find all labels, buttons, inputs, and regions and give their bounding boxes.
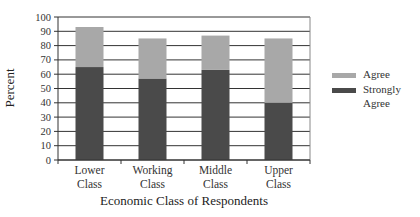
x-category-label: Middle <box>199 164 232 176</box>
bar-segment <box>76 27 104 67</box>
x-axis-label: Economic Class of Respondents <box>100 193 268 208</box>
y-tick-label: 30 <box>41 112 52 123</box>
x-category-label: Lower <box>74 164 104 176</box>
y-tick-label: 40 <box>41 97 52 108</box>
y-tick-label: 0 <box>46 155 51 166</box>
stacked-bar-chart: 0102030405060708090100 LowerClassWorking… <box>0 0 420 217</box>
y-tick-label: 10 <box>41 140 52 151</box>
y-tick-label: 90 <box>41 26 52 37</box>
x-category-label: Upper <box>264 164 293 177</box>
y-tick-label: 100 <box>35 12 51 23</box>
x-category-label: Class <box>203 178 228 190</box>
x-category-label: Class <box>140 178 165 190</box>
x-category-labels: LowerClassWorkingClassMiddleClassUpperCl… <box>74 164 293 190</box>
bars <box>76 27 293 160</box>
x-category-label: Working <box>133 164 173 177</box>
legend: AgreeStronglyAgree <box>332 68 401 109</box>
x-category-label: Class <box>266 178 291 190</box>
y-axis-label: Percent <box>2 68 17 107</box>
bar-segment <box>76 67 104 160</box>
y-tick-label: 60 <box>41 69 52 80</box>
bar-segment <box>202 70 230 160</box>
legend-swatch <box>332 73 356 78</box>
y-tick-label: 80 <box>41 40 52 51</box>
bar-segment <box>202 36 230 70</box>
legend-label: Agree <box>363 68 390 80</box>
legend-label: Strongly <box>363 83 401 95</box>
y-tick-label: 50 <box>41 83 52 94</box>
x-category-label: Class <box>77 178 102 190</box>
legend-swatch <box>332 88 356 93</box>
bar-segment <box>265 103 293 160</box>
y-tick-label: 20 <box>41 126 52 137</box>
bar-segment <box>139 38 167 78</box>
legend-label: Agree <box>363 97 390 109</box>
bar-segment <box>265 38 293 102</box>
y-tick-labels: 0102030405060708090100 <box>35 12 51 166</box>
y-tick-label: 70 <box>41 54 52 65</box>
bar-segment <box>139 78 167 160</box>
